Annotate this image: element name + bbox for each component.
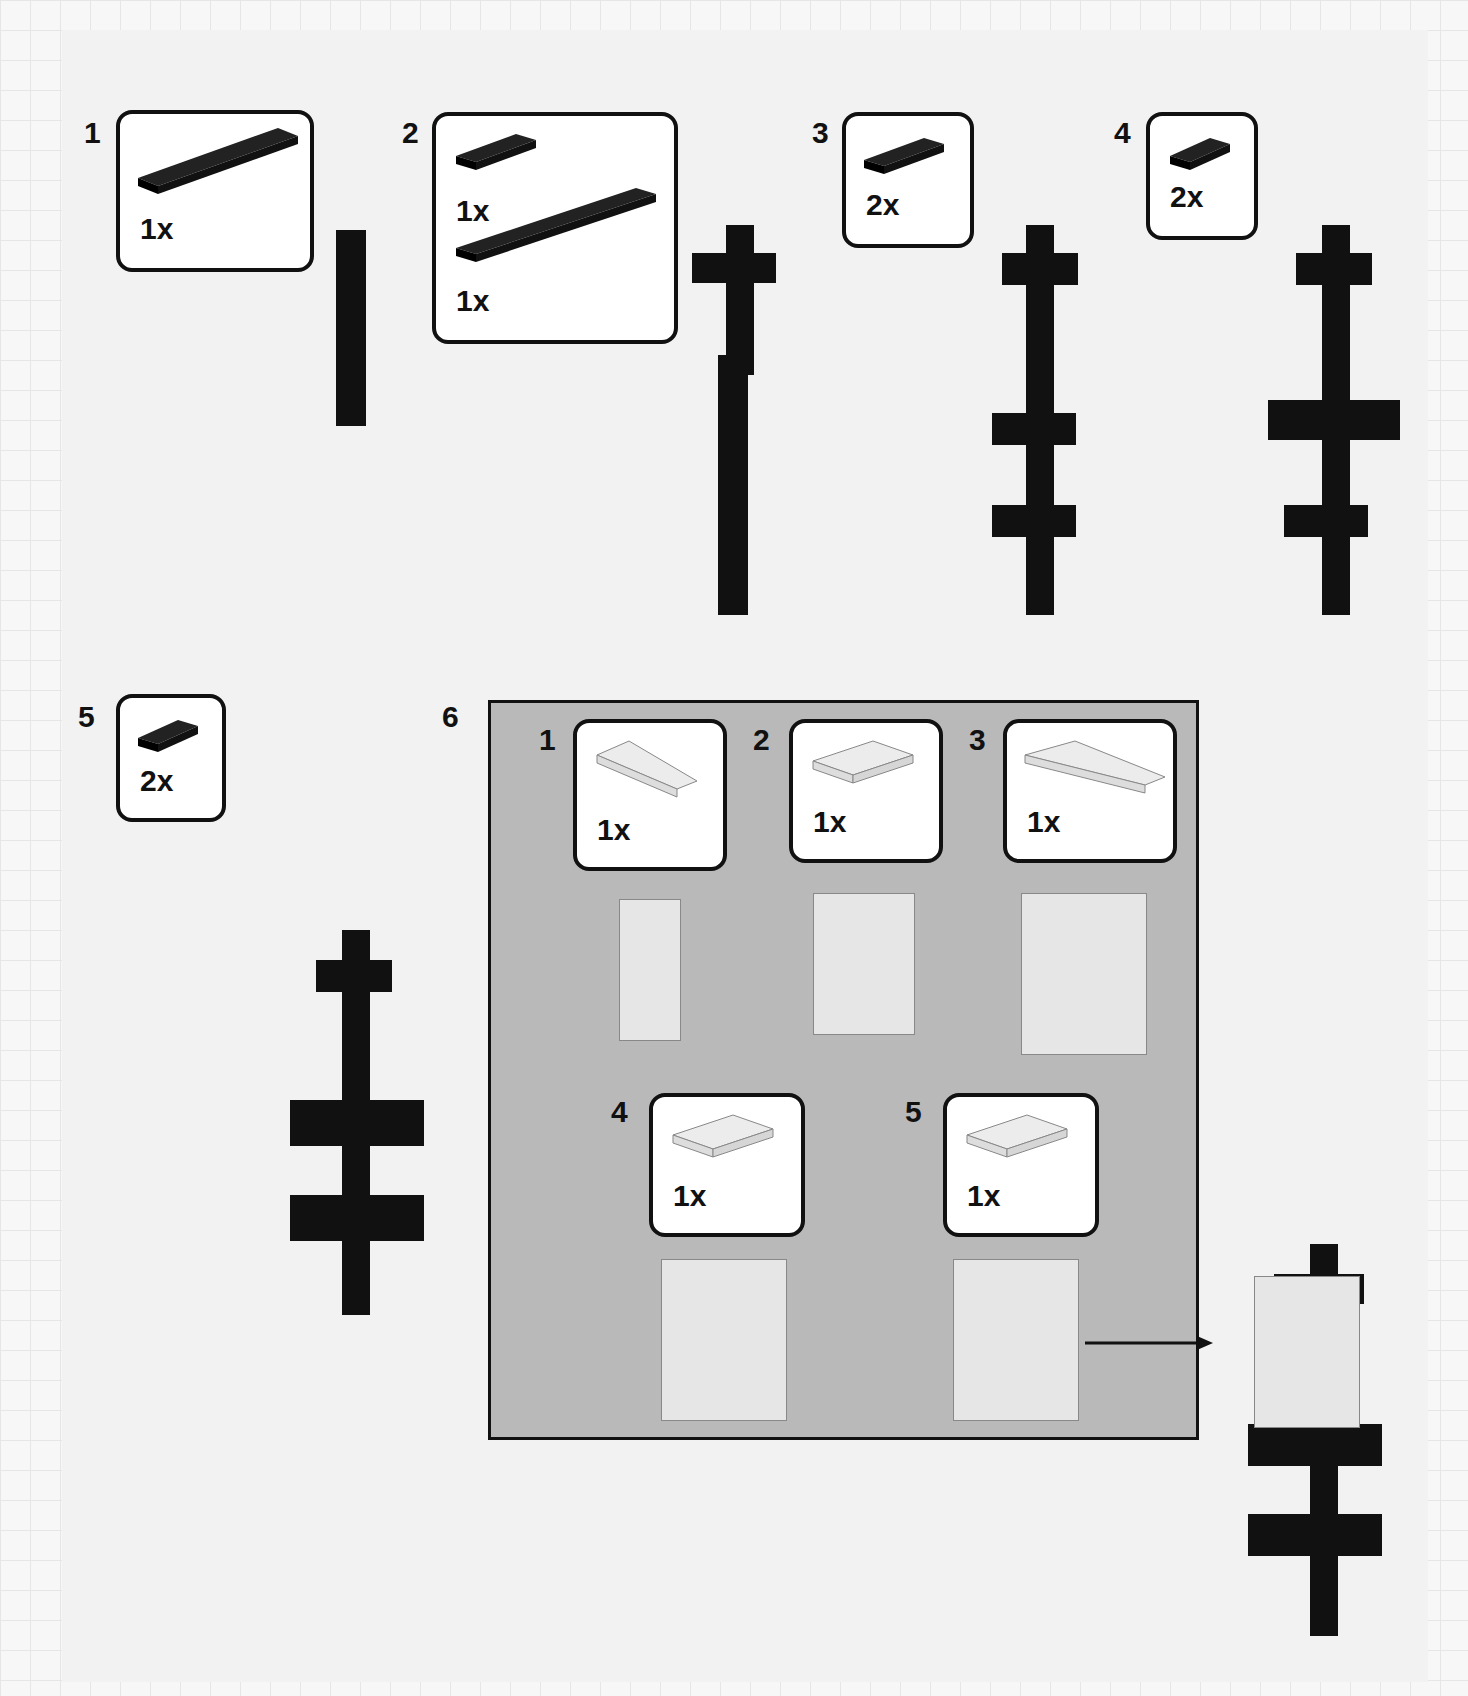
substep-number: 5: [905, 1095, 922, 1129]
step-number: 6: [442, 700, 459, 734]
parts-callout: 1x: [789, 719, 943, 863]
black-plate-1x6-icon: [138, 128, 328, 208]
parts-callout: 1x 1x: [432, 112, 678, 344]
part-quantity: 1x: [967, 1179, 1000, 1213]
subassembly-panel: 1 1x 2 1x 3 1x 4 1x 5 1x: [488, 700, 1199, 1440]
assembly-model: [336, 230, 366, 426]
step-number: 3: [812, 116, 829, 150]
step-number: 1: [84, 116, 101, 150]
parts-callout: 2x: [116, 694, 226, 822]
part-quantity: 1x: [1027, 805, 1060, 839]
parts-callout: 1x: [943, 1093, 1099, 1237]
parts-callout: 2x: [842, 112, 974, 248]
white-wedge-plate-icon: [597, 741, 717, 801]
part-quantity: 2x: [1170, 180, 1203, 214]
part-quantity: 1x: [597, 813, 630, 847]
step-number: 4: [1114, 116, 1131, 150]
part-quantity: 2x: [140, 764, 173, 798]
substep-model: [619, 899, 681, 1041]
substep-model: [1021, 893, 1147, 1055]
part-quantity: 1x: [456, 284, 489, 318]
substep-model: [953, 1259, 1079, 1421]
substep-number: 2: [753, 723, 770, 757]
arrow-right-icon: [1085, 1333, 1215, 1353]
part-quantity: 2x: [866, 188, 899, 222]
parts-callout: 1x: [573, 719, 727, 871]
black-plate-1x3-icon: [864, 138, 964, 178]
step-number: 2: [402, 116, 419, 150]
substep-model: [813, 893, 915, 1035]
assembly-model: [1268, 225, 1400, 615]
black-plate-1x2-icon: [138, 720, 218, 760]
parts-callout: 1x: [1003, 719, 1177, 863]
final-assembly-model: [1248, 1244, 1382, 1636]
part-quantity: 1x: [673, 1179, 706, 1213]
substep-number: 1: [539, 723, 556, 757]
black-plate-1x8-icon: [456, 188, 666, 268]
substep-number: 4: [611, 1095, 628, 1129]
white-plate-2x3-icon: [673, 1115, 793, 1175]
parts-callout: 1x: [116, 110, 314, 272]
assembly-model: [692, 225, 776, 615]
black-plate-1x2-icon: [1170, 138, 1250, 178]
part-quantity: 1x: [813, 805, 846, 839]
substep-number: 3: [969, 723, 986, 757]
assembly-model: [992, 225, 1086, 615]
parts-callout: 1x: [649, 1093, 805, 1237]
black-plate-1x3-icon: [456, 134, 556, 174]
step-number: 5: [78, 700, 95, 734]
parts-callout: 2x: [1146, 112, 1258, 240]
part-quantity: 1x: [140, 212, 173, 246]
white-wedge-plate-notched-icon: [1025, 741, 1175, 801]
white-plate-2x3-icon: [967, 1115, 1087, 1175]
substep-model: [661, 1259, 787, 1421]
white-plate-2x3-icon: [813, 741, 933, 801]
assembly-model: [290, 930, 424, 1315]
